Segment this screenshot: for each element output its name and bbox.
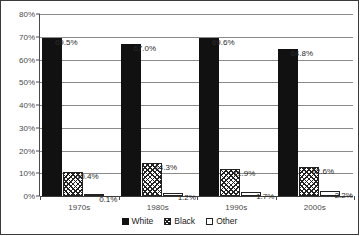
bar-value-label: 69.5% <box>55 38 78 47</box>
bar-white-1990s[interactable] <box>199 38 219 196</box>
bar-value-label: 2.2% <box>335 191 353 200</box>
chart-frame: 0%10%20%30%40%50%60%70%80% 69.5%10.4%0.1… <box>0 0 359 235</box>
x-tick-label-1980s: 1980s <box>147 203 169 212</box>
bar-value-label: 11.9% <box>233 169 255 178</box>
bar-group: 67.0%14.3%1.2% <box>119 14 198 196</box>
bar-white-1980s[interactable] <box>121 44 141 196</box>
x-tick-mark <box>197 196 198 200</box>
x-tick-mark <box>119 196 120 200</box>
legend-item-label: White <box>132 216 154 226</box>
bar-value-label: 67.0% <box>133 44 156 53</box>
bar-group: 69.5%10.4%0.1% <box>40 14 119 196</box>
y-tick-label: 20% <box>19 146 35 155</box>
y-tick-label: 0% <box>23 192 35 201</box>
plot-area: 0%10%20%30%40%50%60%70%80% 69.5%10.4%0.1… <box>39 14 353 196</box>
x-tick-mark <box>40 196 41 200</box>
bar-value-label: 1.2% <box>178 193 196 202</box>
y-tick-label: 30% <box>19 123 35 132</box>
legend-swatch-icon <box>206 218 213 225</box>
x-tick-label-1970s: 1970s <box>68 203 90 212</box>
bar-group: 69.6%11.9%1.7% <box>197 14 276 196</box>
y-tick-label: 40% <box>19 101 35 110</box>
legend-swatch-icon <box>122 218 129 225</box>
legend-item-black[interactable]: Black <box>164 216 195 226</box>
bar-value-label: 10.4% <box>76 172 99 181</box>
x-tick-label-2000s: 2000s <box>304 203 326 212</box>
x-tick-mark <box>354 196 355 200</box>
bar-white-1970s[interactable] <box>42 38 62 196</box>
bar-value-label: 69.6% <box>212 38 235 47</box>
bar-value-label: 64.8% <box>290 49 313 58</box>
legend-item-other[interactable]: Other <box>206 216 237 226</box>
y-tick-label: 60% <box>19 55 35 64</box>
bar-series-layer: 69.5%10.4%0.1%67.0%14.3%1.2%69.6%11.9%1.… <box>40 14 353 196</box>
chart-legend: WhiteBlackOther <box>1 216 358 226</box>
bar-value-label: 0.1% <box>99 195 117 204</box>
y-tick-label: 80% <box>19 10 35 19</box>
bar-value-label: 12.6% <box>311 167 334 176</box>
legend-item-white[interactable]: White <box>122 216 154 226</box>
legend-item-label: Black <box>174 216 195 226</box>
x-tick-label-1990s: 1990s <box>225 203 247 212</box>
legend-swatch-icon <box>164 218 171 225</box>
x-tick-mark <box>276 196 277 200</box>
y-tick-label: 10% <box>19 169 35 178</box>
bar-value-label: 1.7% <box>256 192 274 201</box>
bar-value-label: 14.3% <box>154 163 177 172</box>
legend-item-label: Other <box>216 216 237 226</box>
y-tick-label: 50% <box>19 78 35 87</box>
bar-white-2000s[interactable] <box>278 49 298 196</box>
y-tick-label: 70% <box>19 32 35 41</box>
bar-group: 64.8%12.6%2.2% <box>276 14 355 196</box>
